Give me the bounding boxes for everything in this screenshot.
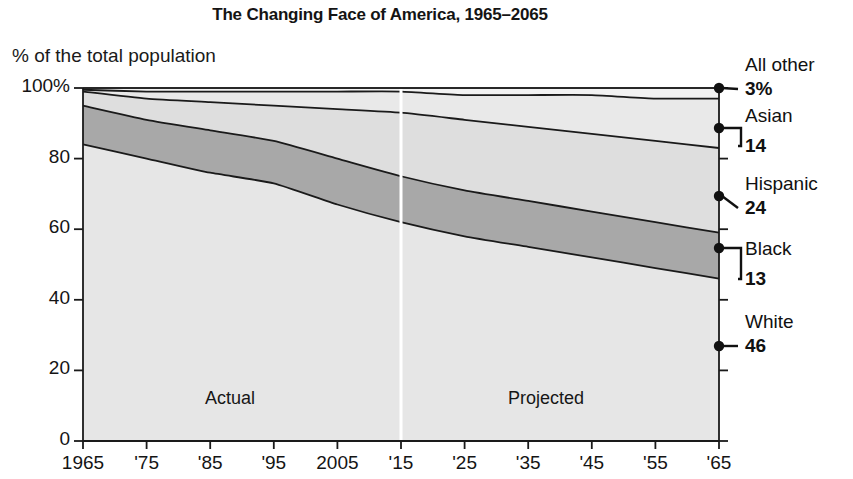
- connector-elbow: [722, 248, 741, 279]
- series-label-value: 13: [745, 268, 766, 290]
- series-label-name: All other: [745, 54, 815, 76]
- y-tick-label: 100%: [21, 75, 70, 97]
- series-label-name: White: [745, 311, 794, 333]
- series-label-value: 3%: [745, 78, 772, 100]
- series-label-value: 46: [745, 335, 766, 357]
- connector-line: [722, 88, 738, 89]
- y-tick-label: 80: [49, 146, 70, 168]
- series-label-name: Black: [745, 238, 791, 260]
- y-tick-label: 40: [49, 287, 70, 309]
- chart-figure: The Changing Face of America, 1965–2065 …: [0, 0, 853, 479]
- annotation-projected: Projected: [508, 388, 584, 409]
- series-label-value: 14: [745, 135, 766, 157]
- x-tick-label: '65: [679, 452, 759, 474]
- y-tick-label: 20: [49, 357, 70, 379]
- series-label-value: 24: [745, 197, 766, 219]
- y-tick-label: 0: [59, 428, 70, 450]
- chart-plot-area: [0, 0, 853, 479]
- annotation-actual: Actual: [205, 388, 255, 409]
- series-label-name: Asian: [745, 105, 793, 127]
- y-tick-label: 60: [49, 216, 70, 238]
- connector-line: [722, 196, 738, 208]
- series-label-name: Hispanic: [745, 173, 818, 195]
- connector-elbow: [722, 128, 741, 146]
